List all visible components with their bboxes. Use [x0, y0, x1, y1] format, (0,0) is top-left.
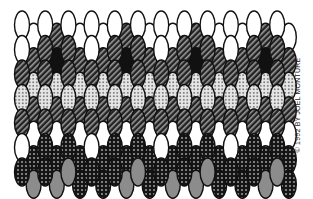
bead-grid: [15, 11, 297, 198]
gray-bead: [270, 158, 285, 186]
dark-dotted-bead: [154, 158, 169, 186]
dark-dotted-bead: [38, 158, 53, 186]
beadwork-pattern: [0, 0, 313, 199]
dark-dotted-bead: [177, 158, 192, 186]
gray-bead: [131, 158, 146, 186]
copyright-credit: © 1992 BY JOEL MONTURE: [294, 58, 301, 153]
gray-bead: [61, 158, 76, 186]
gray-bead: [200, 158, 215, 186]
dark-dotted-bead: [247, 158, 262, 186]
dark-dotted-bead: [223, 158, 238, 186]
dark-dotted-bead: [107, 158, 122, 186]
dark-dotted-bead: [84, 158, 99, 186]
dark-dotted-bead: [15, 158, 30, 186]
